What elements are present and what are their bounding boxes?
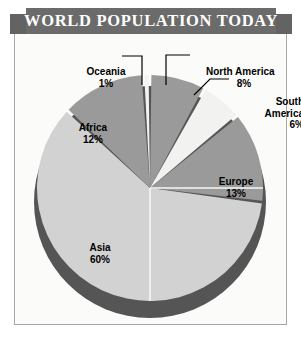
label-north-america-name: North America — [206, 66, 275, 77]
label-africa-pct: 12% — [69, 134, 117, 146]
label-south-america-name2: America — [246, 108, 301, 120]
figure-root: WORLD POPULATION TODAY — [0, 0, 301, 344]
label-south-america-name: South — [276, 96, 301, 107]
label-asia-pct: 60% — [76, 254, 124, 266]
label-north-america-pct: 8% — [206, 78, 282, 90]
label-asia: Asia 60% — [76, 242, 124, 265]
pie-chart: Oceania 1% North America 8% South Americ… — [14, 22, 287, 325]
label-africa: Africa 12% — [69, 122, 117, 145]
label-oceania-name: Oceania — [87, 66, 126, 77]
label-oceania-pct: 1% — [77, 78, 135, 90]
label-europe-name: Europe — [219, 176, 253, 187]
label-europe: Europe 13% — [212, 176, 260, 199]
label-south-america-pct: 6% — [246, 119, 301, 131]
label-africa-name: Africa — [79, 122, 107, 133]
label-oceania: Oceania 1% — [77, 66, 135, 89]
label-south-america: South America 6% — [246, 96, 301, 131]
label-asia-name: Asia — [89, 242, 110, 253]
label-north-america: North America 8% — [206, 66, 301, 89]
label-europe-pct: 13% — [212, 188, 260, 200]
